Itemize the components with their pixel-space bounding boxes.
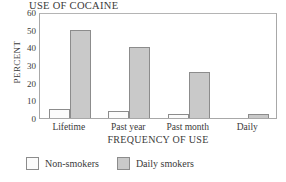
- chart-title: USE OF COCAINE: [29, 0, 118, 11]
- x-axis-tick-label: Past year: [111, 121, 146, 133]
- chart-legend: Non-smokersDaily smokers: [26, 157, 194, 170]
- plot-area: [40, 14, 276, 118]
- y-axis-tick-label: 20: [14, 79, 36, 88]
- y-axis-tick-label: 50: [14, 26, 36, 35]
- bar[interactable]: [108, 111, 129, 118]
- legend-label: Daily smokers: [136, 158, 194, 169]
- legend-entry[interactable]: Daily smokers: [117, 157, 194, 170]
- bar-group: [40, 14, 100, 118]
- bar[interactable]: [49, 109, 70, 118]
- bar-group: [219, 14, 279, 118]
- y-axis-tick-labels: 0102030405060: [14, 13, 36, 119]
- bar[interactable]: [168, 114, 189, 118]
- y-axis-tick-label: 40: [14, 44, 36, 53]
- plot-frame: [39, 13, 277, 119]
- y-axis-tick-label: 30: [14, 62, 36, 71]
- chart-figure: USE OF COCAINE PERCENT 0102030405060 Lif…: [0, 0, 286, 182]
- bar[interactable]: [129, 47, 150, 118]
- x-axis-tick-label: Lifetime: [52, 121, 85, 133]
- bar[interactable]: [70, 30, 91, 118]
- y-axis-tick-label: 0: [14, 115, 36, 124]
- y-axis-tick-label: 10: [14, 97, 36, 106]
- x-axis-title: FREQUENCY OF USE: [39, 134, 277, 145]
- legend-entry[interactable]: Non-smokers: [26, 157, 99, 170]
- legend-label: Non-smokers: [45, 158, 99, 169]
- legend-swatch: [117, 157, 130, 170]
- x-axis-tick-label: Daily: [237, 121, 258, 133]
- legend-swatch: [26, 157, 39, 170]
- bar[interactable]: [189, 72, 210, 118]
- bar-group: [159, 14, 219, 118]
- y-axis-tick-label: 60: [14, 9, 36, 18]
- bar-group: [100, 14, 160, 118]
- bar[interactable]: [248, 114, 269, 118]
- x-axis-tick-label: Past month: [167, 121, 210, 133]
- x-axis-tick-labels: LifetimePast yearPast monthDaily: [39, 121, 277, 135]
